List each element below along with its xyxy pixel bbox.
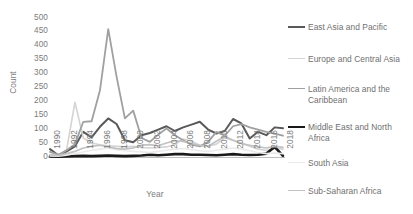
x-tick-label: 2000	[136, 130, 145, 160]
x-tick-label: 1992	[70, 130, 79, 160]
x-tick-label: 1990	[53, 130, 62, 160]
line-chart: 500450400350300250200150100500 Count 199…	[0, 0, 413, 214]
x-tick-label: 1994	[86, 130, 95, 160]
plot-area: 500450400350300250200150100500 Count 199…	[0, 0, 290, 214]
legend-swatch-icon	[288, 126, 305, 128]
legend-item[interactable]: South Asia	[288, 158, 413, 169]
legend-label: Europe and Central Asia	[308, 54, 400, 65]
x-tick-label: 2010	[220, 130, 229, 160]
legend-item[interactable]: East Asia and Pacific	[288, 22, 413, 33]
x-axis-ticks: 1990199219941996199820002002200420062008…	[0, 0, 290, 214]
legend-item[interactable]: Latin America and the Caribbean	[288, 84, 413, 105]
legend-label: South Asia	[308, 158, 349, 169]
x-tick-label: 2014	[253, 130, 262, 160]
legend-swatch-icon	[288, 88, 305, 89]
legend-swatch-icon	[288, 162, 305, 163]
x-tick-label: 1996	[103, 130, 112, 160]
x-tick-label: 2008	[203, 130, 212, 160]
legend-swatch-icon	[288, 190, 305, 191]
legend-swatch-icon	[288, 58, 305, 59]
legend-item[interactable]: Middle East and North Africa	[288, 122, 413, 143]
legend-item[interactable]: Sub-Saharan Africa	[288, 186, 413, 197]
legend-label: Latin America and the Caribbean	[308, 84, 413, 105]
x-tick-label: 2006	[186, 130, 195, 160]
legend-label: East Asia and Pacific	[308, 22, 387, 33]
x-tick-label: 1998	[120, 130, 129, 160]
x-tick-label: 2004	[170, 130, 179, 160]
legend-label: Middle East and North Africa	[308, 122, 413, 143]
legend-label: Sub-Saharan Africa	[308, 186, 382, 197]
x-axis-label: Year	[110, 189, 200, 199]
x-tick-label: 2012	[236, 130, 245, 160]
x-tick-label: 2016	[270, 130, 279, 160]
legend-item[interactable]: Europe and Central Asia	[288, 54, 413, 65]
x-tick-label: 2002	[153, 130, 162, 160]
legend-swatch-icon	[288, 26, 305, 28]
